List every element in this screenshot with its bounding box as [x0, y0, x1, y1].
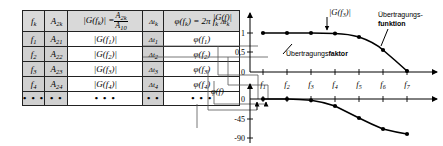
xtick-f4: f4 — [332, 79, 337, 90]
magnitude-point-f6 — [381, 48, 385, 52]
uebertragungsfaktor-label: Übertragungsfaktor — [286, 50, 348, 58]
magnitude-ytick-0: 0 — [241, 68, 245, 77]
magnitude-point-f7 — [405, 69, 409, 73]
phase-point-f5 — [357, 116, 361, 120]
leader-lines — [143, 46, 268, 128]
xtick-f7: f7 — [404, 79, 410, 90]
magnitude-point-f2 — [285, 31, 289, 35]
xtick-f2: f2 — [284, 79, 289, 90]
xtick-f6: f6 — [380, 79, 385, 90]
phase-point-f7 — [405, 132, 409, 136]
uebertragungsfunktion-label-line2: funktion — [378, 20, 406, 27]
phase-ytick-minus90: -90 — [234, 134, 245, 143]
magnitude-point-f1 — [261, 31, 265, 35]
phase-plot: 0 -45 -90 φ(f) — [211, 84, 437, 143]
magnitude-point-f4 — [333, 31, 337, 35]
magnitude-ytick-1: 1 — [241, 29, 245, 38]
gain-point-callout-label: |G(f3)| — [329, 7, 351, 18]
magnitude-ytick-0-5: 0,5 — [235, 48, 245, 57]
shared-frequency-axis-labels: f1 f2 f3 f4 f5 f6 f7 — [260, 79, 410, 90]
magnitude-axis-label: |G(f)| — [213, 12, 232, 22]
phase-point-f4 — [333, 104, 337, 108]
magnitude-point-f3 — [309, 31, 313, 35]
phase-ytick-minus45: -45 — [234, 115, 245, 124]
xtick-f5: f5 — [356, 79, 361, 90]
phase-point-f6 — [381, 127, 385, 131]
xtick-f1: f1 — [260, 79, 265, 90]
figure-root: fk A2k |G(fk)| =A2kA10 Δtk φ(fk) = 2π fk… — [0, 0, 443, 146]
phase-point-f2 — [285, 97, 289, 101]
uebertragungsfunktion-pointer — [381, 29, 388, 46]
xtick-f3: f3 — [308, 79, 313, 90]
phase-axis-label: φ(f) — [211, 86, 224, 96]
uebertragungsfunktion-label-line1: Übertragungs- — [378, 11, 423, 19]
phase-point-f1 — [261, 97, 265, 101]
phase-ytick-0: 0 — [241, 95, 245, 104]
phase-point-f3 — [309, 98, 313, 102]
transfer-function-plots: 1 0,5 0 |G(f)| |G(f3)| — [0, 0, 443, 146]
magnitude-point-f5 — [357, 35, 361, 39]
magnitude-plot: 1 0,5 0 |G(f)| |G(f3)| — [213, 7, 437, 77]
